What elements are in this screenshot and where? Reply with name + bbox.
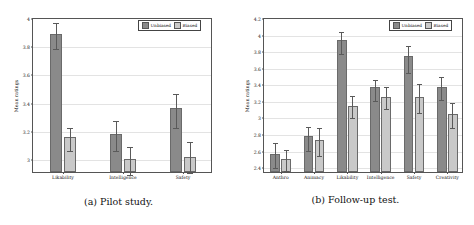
y-axis-label-followup: Mean ratings: [245, 79, 250, 111]
error-bar-cap-top: [113, 121, 120, 122]
error-bar-line: [386, 87, 387, 109]
x-tick-mark: [183, 172, 184, 174]
y-tick-label: 3.8: [254, 50, 264, 55]
legend-followup: Unbiased Biased: [389, 20, 452, 31]
error-bar-line: [176, 94, 177, 129]
error-bar-cap-top: [350, 96, 355, 97]
y-tick-label: 4: [27, 17, 33, 22]
error-bar-line: [116, 121, 117, 151]
error-bar-cap-bottom: [406, 73, 411, 74]
legend-swatch-unbiased-icon: [142, 22, 149, 29]
gridline: [264, 135, 462, 136]
chart-area-pilot: 33.23.43.63.84LikabilityIntelligenceSafe…: [0, 0, 237, 192]
legend-item-biased: Biased: [425, 22, 448, 29]
error-bar-cap-bottom: [450, 128, 455, 129]
error-bar-line: [319, 128, 320, 156]
error-bar-line: [275, 143, 276, 169]
legend-swatch-biased-icon: [174, 22, 181, 29]
x-tick-label: Safety: [176, 175, 191, 180]
x-tick-label: Intelligence: [109, 175, 137, 180]
error-bar-cap-bottom: [439, 100, 444, 101]
error-bar-cap-bottom: [127, 175, 134, 176]
x-tick-mark: [414, 172, 415, 174]
error-bar-line: [419, 84, 420, 114]
error-bar-cap-top: [284, 150, 289, 151]
y-tick-label: 3.6: [254, 66, 264, 71]
x-tick-mark: [314, 172, 315, 174]
x-tick-mark: [347, 172, 348, 174]
x-tick-label: Anthro: [273, 175, 289, 180]
gridline: [264, 52, 462, 53]
plot-frame-followup: 2.42.62.833.23.43.63.844.2AnthroAnimacyL…: [263, 18, 463, 173]
x-tick-label: Intelligence: [367, 175, 395, 180]
error-bar-cap-top: [406, 46, 411, 47]
error-bar-cap-bottom: [273, 168, 278, 169]
error-bar-cap-top: [339, 32, 344, 33]
y-tick-label: 3: [27, 157, 33, 162]
error-bar-line: [308, 127, 309, 151]
gridline: [264, 102, 462, 103]
error-bar-line: [352, 96, 353, 118]
error-bar-line: [441, 77, 442, 100]
y-tick-label: 4: [258, 33, 264, 38]
legend-swatch-biased-icon: [425, 22, 432, 29]
x-tick-mark: [381, 172, 382, 174]
error-bar-line: [130, 147, 131, 174]
error-bar-line: [375, 80, 376, 102]
error-bar-cap-top: [384, 87, 389, 88]
error-bar-cap-top: [273, 143, 278, 144]
legend-label-biased: Biased: [434, 23, 449, 28]
x-tick-label: Animacy: [304, 175, 324, 180]
gridline: [264, 69, 462, 70]
legend-swatch-unbiased-icon: [393, 22, 400, 29]
y-tick-label: 3.2: [254, 99, 264, 104]
legend-item-unbiased: Unbiased: [142, 22, 171, 29]
error-bar-cap-top: [53, 23, 60, 24]
legend-item-unbiased: Unbiased: [393, 22, 422, 29]
y-tick-label: 2.8: [254, 133, 264, 138]
bar-unbiased: [50, 34, 62, 172]
legend-label-biased: Biased: [183, 23, 198, 28]
y-tick-label: 2.6: [254, 149, 264, 154]
subfigure-followup: 2.42.62.833.23.43.63.844.2AnthroAnimacyL…: [237, 0, 474, 225]
error-bar-cap-bottom: [284, 171, 289, 172]
legend-label-unbiased: Unbiased: [151, 23, 172, 28]
error-bar-line: [286, 150, 287, 171]
error-bar-cap-top: [417, 84, 422, 85]
x-tick-label: Likability: [52, 175, 74, 180]
error-bar-cap-top: [306, 127, 311, 128]
x-tick-mark: [281, 172, 282, 174]
y-tick-label: 3.6: [23, 73, 33, 78]
error-bar-line: [70, 128, 71, 151]
error-bar-line: [341, 32, 342, 54]
error-bar-cap-bottom: [173, 128, 180, 129]
error-bar-line: [56, 23, 57, 50]
subfigure-pilot: 33.23.43.63.84LikabilityIntelligenceSafe…: [0, 0, 237, 225]
y-tick-label: 3.8: [23, 45, 33, 50]
error-bar-cap-bottom: [417, 113, 422, 114]
y-tick-label: 2.4: [254, 166, 264, 171]
error-bar-cap-top: [439, 77, 444, 78]
gridline: [264, 118, 462, 119]
legend-item-biased: Biased: [174, 22, 197, 29]
x-tick-label: Likability: [336, 175, 358, 180]
plot-frame-pilot: 33.23.43.63.84LikabilityIntelligenceSafe…: [32, 18, 212, 173]
figure-row: 33.23.43.63.84LikabilityIntelligenceSafe…: [0, 0, 474, 225]
gridline: [264, 36, 462, 37]
error-bar-cap-top: [67, 128, 74, 129]
error-bar-cap-bottom: [339, 54, 344, 55]
x-tick-mark: [447, 172, 448, 174]
error-bar-cap-bottom: [67, 151, 74, 152]
gridline: [264, 168, 462, 169]
error-bar-cap-bottom: [113, 151, 120, 152]
error-bar-cap-top: [450, 103, 455, 104]
x-tick-label: Creativity: [436, 175, 459, 180]
error-bar-line: [408, 46, 409, 73]
legend-label-unbiased: Unbiased: [402, 23, 423, 28]
error-bar-line: [452, 103, 453, 129]
y-tick-label: 4.2: [254, 17, 264, 22]
subfigure-caption-followup: (b) Follow-up test.: [237, 194, 474, 205]
x-tick-label: Safety: [407, 175, 422, 180]
y-tick-label: 3.4: [23, 101, 33, 106]
gridline: [264, 85, 462, 86]
